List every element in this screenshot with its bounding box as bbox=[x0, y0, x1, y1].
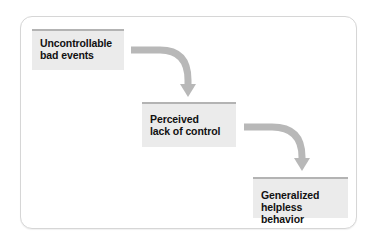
node-generalized-helpless-behavior: Generalized helpless behavior bbox=[253, 177, 348, 218]
node-label-line: Generalized bbox=[261, 189, 340, 201]
node-label-line: helpless behavior bbox=[261, 201, 340, 225]
node-label-line: Perceived bbox=[150, 113, 228, 125]
node-label-line: Uncontrollable bbox=[40, 37, 116, 49]
node-perceived-lack-of-control: Perceived lack of control bbox=[142, 102, 236, 147]
node-uncontrollable-bad-events: Uncontrollable bad events bbox=[32, 29, 124, 70]
node-label-line: bad events bbox=[40, 49, 116, 61]
node-label-line: lack of control bbox=[150, 125, 228, 137]
